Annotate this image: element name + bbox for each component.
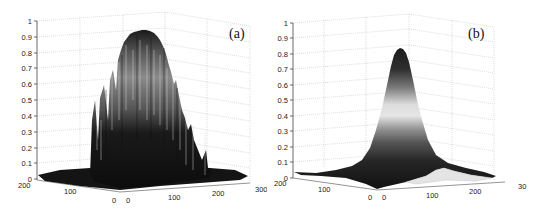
svg-text:0.6: 0.6 bbox=[22, 80, 32, 89]
svg-text:0.9: 0.9 bbox=[278, 34, 288, 43]
surface-plot-b: 1 0.9 0.8 0.7 0.6 0.5 0.4 0.3 0.2 0.1 0 … bbox=[256, 0, 523, 211]
svg-text:0.9: 0.9 bbox=[22, 33, 32, 42]
svg-text:200: 200 bbox=[469, 187, 482, 196]
panel-label-a: (a) bbox=[229, 26, 245, 42]
z-tick-labels-a: 1 0.9 0.8 0.7 0.6 0.5 0.4 0.3 0.2 0.1 0 bbox=[22, 17, 32, 184]
svg-text:100: 100 bbox=[64, 187, 77, 196]
svg-text:200: 200 bbox=[18, 181, 31, 190]
svg-text:0.2: 0.2 bbox=[22, 144, 32, 153]
svg-text:0.5: 0.5 bbox=[22, 96, 32, 105]
svg-text:0.8: 0.8 bbox=[22, 49, 32, 58]
svg-text:200: 200 bbox=[212, 189, 225, 198]
svg-text:0.7: 0.7 bbox=[278, 65, 288, 74]
surface-plot-a: 1 0.9 0.8 0.7 0.6 0.5 0.4 0.3 0.2 0.1 0 … bbox=[0, 0, 267, 211]
svg-text:100: 100 bbox=[426, 191, 439, 200]
svg-text:0.8: 0.8 bbox=[278, 50, 288, 59]
z-tick-labels-b: 1 0.9 0.8 0.7 0.6 0.5 0.4 0.3 0.2 0.1 0 bbox=[278, 19, 288, 183]
svg-text:0.3: 0.3 bbox=[278, 127, 288, 136]
svg-text:0.4: 0.4 bbox=[278, 112, 288, 121]
svg-text:1: 1 bbox=[28, 17, 32, 26]
surface-peak-b bbox=[294, 48, 496, 189]
svg-text:0: 0 bbox=[112, 196, 116, 205]
svg-text:0.2: 0.2 bbox=[278, 143, 288, 152]
svg-text:200: 200 bbox=[274, 179, 287, 188]
plot-b-canvas: 1 0.9 0.8 0.7 0.6 0.5 0.4 0.3 0.2 0.1 0 … bbox=[256, 0, 534, 211]
plot-a-canvas: 1 0.9 0.8 0.7 0.6 0.5 0.4 0.3 0.2 0.1 0 … bbox=[0, 0, 267, 211]
svg-text:0: 0 bbox=[368, 193, 372, 202]
svg-text:0.3: 0.3 bbox=[22, 128, 32, 137]
svg-text:0.4: 0.4 bbox=[22, 112, 32, 121]
svg-text:0.1: 0.1 bbox=[278, 158, 288, 167]
svg-text:0: 0 bbox=[382, 193, 386, 202]
svg-text:0: 0 bbox=[126, 196, 130, 205]
svg-text:30: 30 bbox=[518, 182, 526, 191]
svg-text:0.7: 0.7 bbox=[22, 64, 32, 73]
svg-text:0.6: 0.6 bbox=[278, 81, 288, 90]
svg-text:0.1: 0.1 bbox=[22, 159, 32, 168]
svg-text:0.5: 0.5 bbox=[278, 96, 288, 105]
svg-text:1: 1 bbox=[284, 19, 288, 28]
svg-text:100: 100 bbox=[168, 193, 181, 202]
panel-label-b: (b) bbox=[468, 26, 485, 42]
svg-text:100: 100 bbox=[318, 185, 331, 194]
